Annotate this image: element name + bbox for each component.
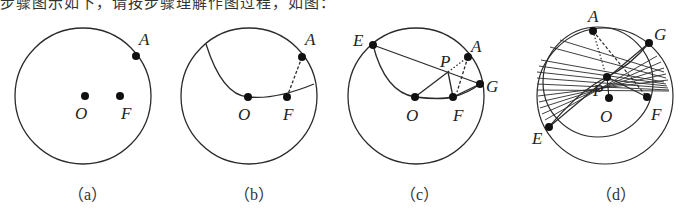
point-b-F (283, 93, 291, 101)
caption-b: （b） (234, 186, 274, 203)
point-d-E (545, 123, 553, 131)
label-b-A: A (304, 30, 316, 49)
point-b-O (244, 93, 252, 101)
label-c-E: E (352, 31, 364, 50)
caption-d: （d） (596, 186, 636, 203)
point-d-P (603, 73, 611, 81)
diagram-canvas: A O F （a） A O F （b） E P A G O F （c） (0, 0, 683, 222)
point-d-F (643, 93, 651, 101)
label-c-F: F (452, 106, 464, 125)
figure-b-points (244, 53, 306, 101)
label-a-O: O (75, 104, 87, 123)
point-a-F (116, 92, 124, 100)
parabola-b (206, 44, 314, 97)
point-c-F (449, 93, 457, 101)
label-d-O: O (600, 107, 612, 126)
label-a-A: A (138, 30, 150, 49)
caption-c: （c） (400, 186, 439, 203)
point-d-G (645, 39, 653, 47)
label-d-E: E (531, 129, 543, 148)
point-d-O (605, 94, 613, 102)
label-c-P: P (439, 52, 450, 71)
point-c-E (369, 41, 377, 49)
line-OP-c (415, 72, 448, 97)
label-d-F: F (650, 105, 662, 124)
label-b-O: O (238, 105, 250, 124)
dashed-AF-c (457, 57, 468, 92)
point-c-O (411, 93, 419, 101)
label-d-G: G (654, 25, 666, 44)
label-a-F: F (120, 104, 132, 123)
dotted-AP-d (593, 31, 605, 72)
point-a-O (81, 92, 89, 100)
outer-circle-d (537, 28, 673, 164)
point-d-A (589, 27, 597, 35)
figure-a-points (81, 52, 140, 100)
figure-d (537, 27, 673, 164)
label-c-O: O (406, 106, 418, 125)
point-c-G (476, 80, 484, 88)
label-c-G: G (486, 77, 498, 96)
label-b-F: F (282, 105, 294, 124)
line-EG-c (373, 45, 480, 84)
caption-a: （a） (68, 186, 107, 203)
point-b-A (298, 53, 306, 61)
point-a-A (132, 52, 140, 60)
label-d-P: P (592, 81, 603, 100)
label-c-A: A (470, 37, 482, 56)
label-d-A: A (587, 7, 599, 26)
